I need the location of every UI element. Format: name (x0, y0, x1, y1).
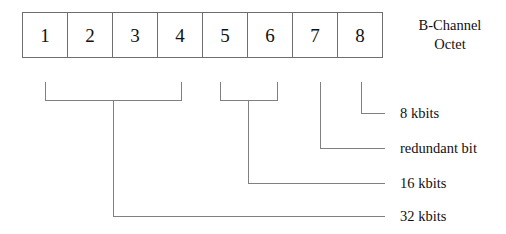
octet-cell-label: 1 (40, 26, 50, 45)
bracket-1-4-right-arm (181, 82, 182, 101)
bracket-5-6-crossbar (220, 100, 278, 101)
connector-32kbits-stem (113, 100, 114, 217)
octet-cell-4: 4 (158, 13, 203, 57)
connector-8kbits-stem (361, 82, 362, 114)
octet-title: B-Channel Octet (398, 16, 502, 53)
b-channel-octet-diagram: 1 2 3 4 5 6 7 8 B-Channel Octet (0, 0, 506, 234)
connector-16kbits-stem (248, 100, 249, 184)
annotation-label-redundant-bit: redundant bit (400, 141, 477, 156)
octet-cell-label: 8 (355, 26, 365, 45)
annotation-label-32kbits: 32 kbits (400, 209, 446, 224)
octet-cell-3: 3 (113, 13, 158, 57)
octet-cell-2: 2 (68, 13, 113, 57)
annotation-label-8kbits: 8 kbits (400, 106, 439, 121)
connector-8kbits-arm (361, 113, 385, 114)
octet-cell-5: 5 (203, 13, 248, 57)
octet-cell-label: 7 (310, 26, 320, 45)
octet-title-line-1: B-Channel (398, 16, 502, 35)
octet-cell-8: 8 (338, 13, 382, 57)
octet-cell-7: 7 (293, 13, 338, 57)
connector-16kbits-arm (248, 183, 385, 184)
octet-cell-1: 1 (23, 13, 68, 57)
bracket-1-4-left-arm (45, 82, 46, 101)
octet-title-line-2: Octet (398, 35, 502, 54)
annotation-label-16kbits: 16 kbits (400, 176, 446, 191)
bracket-5-6-right-arm (277, 82, 278, 101)
octet-cell-label: 2 (85, 26, 95, 45)
octet-cell-6: 6 (248, 13, 293, 57)
octet-bit-row: 1 2 3 4 5 6 7 8 (22, 12, 383, 58)
octet-cell-label: 6 (265, 26, 275, 45)
octet-cell-label: 4 (175, 26, 185, 45)
connector-redundant-bit-arm (320, 148, 385, 149)
bracket-5-6-left-arm (220, 82, 221, 101)
connector-redundant-bit-stem (320, 82, 321, 149)
octet-cell-label: 3 (130, 26, 140, 45)
connector-32kbits-arm (113, 216, 385, 217)
octet-cell-label: 5 (220, 26, 230, 45)
